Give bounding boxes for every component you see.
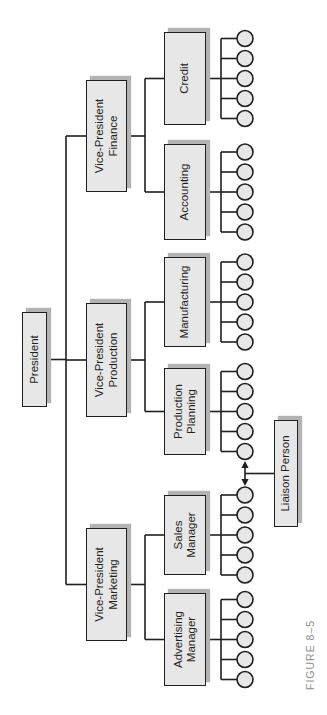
liaison-arrow-head-left	[241, 479, 248, 486]
production-planning-label: Production	[172, 384, 186, 439]
production-planning-box: ProductionPlanning	[164, 368, 206, 455]
advertising-manager-worker-circle	[237, 592, 253, 608]
production-planning-worker-circle	[237, 404, 253, 420]
manufacturing-worker-circle	[237, 294, 253, 310]
credit-worker-circle	[237, 51, 253, 67]
manufacturing-worker-circle	[237, 254, 253, 270]
production-planning-worker-circle	[237, 424, 253, 440]
sales-manager-box: SalesManager	[164, 495, 206, 575]
sales-manager-worker-circle	[237, 487, 253, 503]
manufacturing-worker-circle	[237, 314, 253, 330]
manufacturing-worker-circle	[237, 334, 253, 350]
accounting-worker-circle	[237, 144, 253, 160]
advertising-manager-worker-circle	[237, 612, 253, 628]
liaison-person-box: Liaison Person	[274, 420, 298, 527]
president-box: President	[22, 312, 47, 407]
accounting-worker-circle	[237, 184, 253, 200]
president-label: President	[28, 335, 42, 384]
production-planning-worker-circle	[237, 364, 253, 380]
credit-worker-circle	[237, 111, 253, 127]
sales-manager-label: Manager	[185, 512, 199, 557]
credit-worker-circle	[237, 71, 253, 87]
credit-worker-circle	[237, 31, 253, 47]
figure-page: PresidentVice-PresidentMarketingAdvertis…	[0, 0, 327, 715]
credit-worker-circle	[237, 91, 253, 107]
production-planning-worker-circle	[237, 444, 253, 460]
liaison-arrow-head-right	[241, 461, 248, 468]
sales-manager-worker-circle	[237, 547, 253, 563]
vp-finance-label: Finance	[107, 116, 121, 157]
vp-production-label: Production	[107, 333, 121, 388]
credit-box: Credit	[164, 32, 206, 125]
advertising-manager-worker-circle	[237, 652, 253, 668]
accounting-box: Accounting	[164, 144, 206, 240]
credit-label: Credit	[178, 63, 192, 94]
vp-production-label: Vice-President	[93, 323, 107, 398]
sales-manager-label: Sales	[172, 521, 186, 550]
org-chart: PresidentVice-PresidentMarketingAdvertis…	[0, 0, 327, 715]
advertising-manager-label: Manager	[185, 617, 199, 662]
advertising-manager-box: AdvertisingManager	[164, 593, 206, 686]
sales-manager-worker-circle	[237, 567, 253, 583]
advertising-manager-label: Advertising	[172, 611, 186, 668]
vp-marketing-box: Vice-PresidentMarketing	[86, 528, 127, 641]
production-planning-label: Planning	[185, 389, 199, 434]
accounting-worker-circle	[237, 164, 253, 180]
sales-manager-worker-circle	[237, 527, 253, 543]
accounting-label: Accounting	[178, 164, 192, 221]
vp-finance-label: Vice-President	[93, 99, 107, 174]
manufacturing-label: Manufacturing	[178, 266, 192, 339]
manufacturing-worker-circle	[237, 274, 253, 290]
accounting-worker-circle	[237, 224, 253, 240]
vp-marketing-label: Marketing	[107, 559, 121, 610]
production-planning-worker-circle	[237, 384, 253, 400]
sales-manager-worker-circle	[237, 507, 253, 523]
advertising-manager-worker-circle	[237, 672, 253, 688]
vp-production-box: Vice-PresidentProduction	[86, 303, 127, 417]
figure-caption: FIGURE 8–5	[304, 620, 316, 690]
vp-finance-box: Vice-PresidentFinance	[86, 80, 127, 192]
liaison-person-label: Liaison Person	[279, 435, 293, 511]
accounting-worker-circle	[237, 204, 253, 220]
manufacturing-box: Manufacturing	[164, 257, 206, 347]
advertising-manager-worker-circle	[237, 632, 253, 648]
vp-marketing-label: Vice-President	[93, 547, 107, 622]
